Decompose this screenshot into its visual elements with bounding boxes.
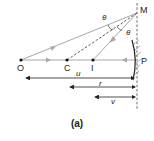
point-O xyxy=(19,58,22,61)
angle-label-theta-1: θ xyxy=(102,13,107,22)
incident-ray xyxy=(21,13,137,60)
v-arrowhead-right-icon xyxy=(132,95,136,99)
label-v: v xyxy=(111,97,116,106)
label-C: C xyxy=(64,63,71,73)
label-r: r xyxy=(99,79,102,88)
incident-ray-arrow-icon xyxy=(50,46,56,51)
axis-arrow-left-icon xyxy=(122,58,127,63)
label-P: P xyxy=(141,56,147,66)
axis-arrow-right-icon xyxy=(46,58,51,63)
figure-caption: (a) xyxy=(0,118,154,129)
reflected-ray xyxy=(93,13,137,60)
label-O: O xyxy=(17,63,24,73)
label-I: I xyxy=(91,63,94,73)
point-C xyxy=(65,58,68,61)
label-u: u xyxy=(76,69,81,78)
point-I xyxy=(91,58,94,61)
r-arrowhead-right-icon xyxy=(132,85,136,89)
label-M: M xyxy=(140,5,148,15)
angle-label-theta-2: θ xyxy=(126,28,131,37)
angle-arc-incidence xyxy=(108,25,113,30)
